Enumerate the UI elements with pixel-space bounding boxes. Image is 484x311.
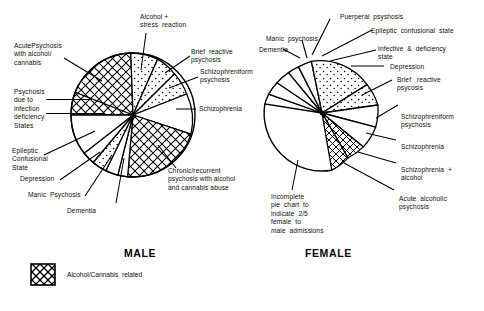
female-label-schizophreniform-psychosis: Schizophreniform psychosis bbox=[401, 113, 454, 130]
female-label-acute-alcoholic-psychosis: Acute alcoholic psychosis bbox=[399, 195, 447, 212]
male-label-dementia: Dementia bbox=[67, 207, 96, 215]
male-label-infection-deficiency: Psychosis due to infection deficiency St… bbox=[14, 88, 45, 130]
female-label-schizophrenia: Schizophrenia bbox=[401, 143, 444, 151]
male-label-manic-psychosis: Manic Psychosis bbox=[28, 191, 81, 199]
female-label-incomplete-pie-note: Incomplete pie chart to indicate 2/5 fem… bbox=[271, 193, 324, 235]
male-label-schizophreniform-psychosis: Schizophreniform psychosis bbox=[200, 68, 253, 85]
female-label-dementia: Dementia bbox=[259, 46, 288, 54]
male-slice-acute-psychosis-alcohol-cannabis bbox=[71, 53, 133, 115]
female-chart-title: FEMALE bbox=[305, 247, 352, 259]
legend-label-alcohol-cannabis: Alcohol/Cannabis related bbox=[67, 271, 142, 278]
leader-f-epileptic bbox=[322, 30, 372, 56]
male-label-alcohol-stress-reaction: Alcohol + stress reaction bbox=[140, 13, 186, 30]
female-label-brief-reactive-psycosis: Brief reactive psycosis bbox=[397, 76, 441, 93]
legend-swatch-alcohol-cannabis bbox=[31, 264, 55, 285]
female-label-epileptic-confusional-state: Epileptic confusional state bbox=[371, 27, 454, 35]
male-label-epileptic-confusional-state: Epileptic Confusional State bbox=[12, 147, 48, 172]
female-label-manic-psychosis: Manic psychosis bbox=[266, 35, 318, 43]
leader-f-infective bbox=[330, 50, 376, 61]
male-pie-chart bbox=[71, 53, 195, 177]
male-label-schizophrenia: Schizophrenia bbox=[199, 105, 242, 113]
male-label-acute-psychosis: AcutePsychosis with alcohol/ cannabis bbox=[14, 42, 62, 67]
female-pie-hub bbox=[320, 111, 325, 116]
leader-f-schizophrenia-alcohol bbox=[358, 152, 396, 163]
female-pie-chart bbox=[264, 61, 378, 171]
female-label-puerperal-psychosis: Puerperal psyshosis bbox=[340, 13, 403, 21]
leader-f-schizophreniform bbox=[376, 105, 398, 118]
male-label-brief-reactive-psychosis: Brief reactive psychosis bbox=[191, 48, 233, 65]
female-label-schizophrenia-alcohol: Schizophrenia + alcohol bbox=[401, 166, 452, 183]
male-pie-hub bbox=[130, 112, 135, 117]
leader-f-acute-alcoholic bbox=[344, 163, 394, 190]
female-label-infective-deficiency-state: Infective & deficiency state bbox=[378, 45, 446, 62]
male-label-depression: Depression bbox=[20, 175, 54, 183]
male-label-chronic-recurrent-psychosis: Chronic/recurrent psychosis with alcohol… bbox=[168, 167, 235, 192]
male-chart-title: MALE bbox=[124, 247, 156, 259]
legend bbox=[31, 264, 55, 285]
female-label-depression: Depression bbox=[390, 63, 424, 71]
leader-depression bbox=[60, 152, 100, 180]
